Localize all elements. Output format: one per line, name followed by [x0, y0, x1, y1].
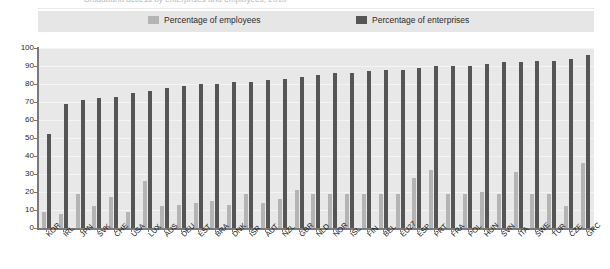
- bar-employees: [396, 194, 400, 228]
- y-axis-tick: [34, 120, 38, 121]
- bar-employees: [42, 212, 46, 228]
- bar-enterprises: [401, 70, 405, 228]
- bar-enterprises: [485, 64, 489, 228]
- bar-employees: [76, 194, 80, 228]
- y-axis-tick: [34, 192, 38, 193]
- bar-group: [55, 48, 72, 228]
- bar-enterprises: [131, 93, 135, 228]
- bar-group: [291, 48, 308, 228]
- chart-legend: Percentage of employees Percentage of en…: [38, 11, 594, 32]
- y-axis-tick: [34, 102, 38, 103]
- y-axis-tick: [34, 66, 38, 67]
- bar-group: [105, 48, 122, 228]
- legend-label-enterprises: Percentage of enterprises: [372, 15, 469, 25]
- bar-group: [341, 48, 358, 228]
- bar-enterprises: [165, 88, 169, 228]
- y-axis-labels: 0102030405060708090100: [14, 48, 34, 228]
- bar-group: [493, 48, 510, 228]
- y-axis-tick-label: 0: [14, 224, 34, 232]
- bar-employees: [463, 194, 467, 228]
- bar-employees: [328, 194, 332, 228]
- bar-enterprises: [64, 104, 68, 228]
- bar-group: [122, 48, 139, 228]
- bar-enterprises: [569, 59, 573, 228]
- bar-group: [274, 48, 291, 228]
- bar-employees: [581, 163, 585, 228]
- y-axis-tick-label: 80: [14, 80, 34, 88]
- bar-enterprises: [232, 82, 236, 228]
- bar-group: [257, 48, 274, 228]
- bar-enterprises: [367, 71, 371, 228]
- bar-employees: [143, 181, 147, 228]
- bar-group: [38, 48, 55, 228]
- bar-enterprises: [451, 66, 455, 228]
- bar-group: [206, 48, 223, 228]
- y-axis-tick: [34, 156, 38, 157]
- y-axis-tick: [34, 84, 38, 85]
- bar-group: [72, 48, 89, 228]
- bar-employees: [514, 172, 518, 228]
- bar-employees: [210, 201, 214, 228]
- bar-group: [173, 48, 190, 228]
- x-axis-labels: KORIRLJPNSVKCHEUSALUXAUSDEUESTBRADNKISRA…: [38, 233, 594, 269]
- bar-group: [510, 48, 527, 228]
- bar-group: [526, 48, 543, 228]
- bar-groups: [38, 48, 594, 228]
- bar-employees: [295, 190, 299, 228]
- bar-group: [223, 48, 240, 228]
- bar-enterprises: [552, 61, 556, 228]
- bar-enterprises: [47, 134, 51, 228]
- bar-group: [392, 48, 409, 228]
- bar-enterprises: [81, 100, 85, 228]
- bar-enterprises: [97, 98, 101, 228]
- y-axis-tick: [34, 210, 38, 211]
- bar-employees: [530, 194, 534, 228]
- y-axis-tick-label: 40: [14, 152, 34, 160]
- legend-item-enterprises: Percentage of enterprises: [356, 15, 469, 25]
- y-axis-tick: [34, 174, 38, 175]
- bar-employees: [160, 206, 164, 228]
- bar-enterprises: [586, 55, 590, 228]
- bar-employees: [278, 199, 282, 228]
- bar-enterprises: [434, 66, 438, 228]
- legend-swatch-enterprises: [356, 16, 367, 24]
- bar-employees: [497, 194, 501, 228]
- figure-title: Broadband access by enterprises and empl…: [84, 0, 287, 4]
- bar-enterprises: [519, 62, 523, 228]
- bar-employees: [379, 194, 383, 228]
- bar-enterprises: [468, 66, 472, 228]
- bar-enterprises: [300, 77, 304, 228]
- bar-group: [442, 48, 459, 228]
- bar-group: [358, 48, 375, 228]
- y-axis-tick: [34, 48, 38, 49]
- title-divider: [38, 8, 594, 9]
- bar-enterprises: [114, 97, 118, 228]
- bar-enterprises: [182, 86, 186, 228]
- y-axis-tick-label: 20: [14, 188, 34, 196]
- bar-enterprises: [199, 84, 203, 228]
- bar-group: [240, 48, 257, 228]
- bar-group: [577, 48, 594, 228]
- bar-group: [139, 48, 156, 228]
- legend-label-employees: Percentage of employees: [164, 15, 260, 25]
- bar-group: [89, 48, 106, 228]
- y-axis-tick-label: 30: [14, 170, 34, 178]
- y-axis-tick: [34, 138, 38, 139]
- legend-item-employees: Percentage of employees: [148, 15, 260, 25]
- y-axis-tick-label: 10: [14, 206, 34, 214]
- bar-group: [190, 48, 207, 228]
- bar-enterprises: [535, 61, 539, 228]
- bar-enterprises: [283, 79, 287, 228]
- bar-group: [425, 48, 442, 228]
- bar-enterprises: [384, 70, 388, 228]
- y-axis-tick-label: 90: [14, 62, 34, 70]
- legend-swatch-employees: [148, 16, 159, 24]
- y-axis-tick-label: 60: [14, 116, 34, 124]
- y-axis-tick-label: 50: [14, 134, 34, 142]
- bar-employees: [362, 194, 366, 228]
- y-axis-tick-label: 100: [14, 44, 34, 52]
- bar-enterprises: [350, 73, 354, 228]
- bar-group: [409, 48, 426, 228]
- bar-enterprises: [249, 82, 253, 228]
- bar-employees: [480, 192, 484, 228]
